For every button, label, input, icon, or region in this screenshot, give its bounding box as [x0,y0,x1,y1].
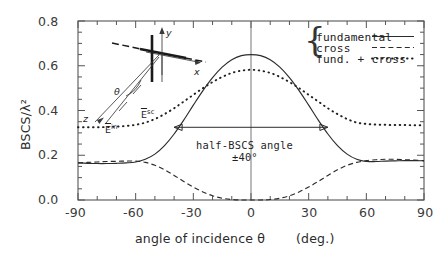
annotation-half-bscs-value: ±40° [232,151,258,163]
inset-y-axis-label: y [166,27,172,38]
ytick-label-0.0: 0.0 [38,192,58,207]
ytick-label-0.8: 0.8 [38,14,58,29]
inset-ray-marker-a [119,102,127,111]
inset-plate-dashed-left [112,43,141,49]
ytick-label-0.2: 0.2 [38,147,58,162]
inset-incident-field-label: Ein [92,112,118,146]
y-axis-title: BSCS/λ² [18,99,33,150]
ytick-label-0.6: 0.6 [38,58,58,73]
x-axis-units: (deg.) [296,231,335,246]
inset-theta-label: θ [114,86,120,97]
xtick-label--30: -30 [181,205,202,220]
x-axis-title: angle of incidence θ [135,231,265,246]
ytick-label-0.4: 0.4 [38,103,58,118]
xtick-label-90: 90 [417,205,433,220]
legend-label-sum: fund. + cross [316,53,406,66]
xtick-label--60: -60 [123,205,144,220]
xtick-label-60: 60 [359,205,375,220]
inset-y-arrowhead [159,27,164,34]
xtick-label-30: 30 [301,205,317,220]
bscs-angle-of-incidence-chart: 0.8 0.6 0.4 0.2 0.0 BSCS/λ² -90 -60 -30 … [0,0,447,259]
inset-x-axis-label: x [194,66,200,77]
inset-ray-marker-b [133,85,141,94]
inset-z-axis-label: z [83,113,88,124]
inset-incident-field-superscript: in [111,123,117,131]
inset-scattered-field-label: Esc [128,97,155,131]
xtick-label--90: -90 [65,205,86,220]
xtick-label-0: 0 [247,205,255,220]
inset-scattered-field-superscript: sc [147,108,154,116]
inset-plate-horizontal [140,49,186,58]
annotation-half-bscs-angle: half-BSCS angle [196,139,293,151]
